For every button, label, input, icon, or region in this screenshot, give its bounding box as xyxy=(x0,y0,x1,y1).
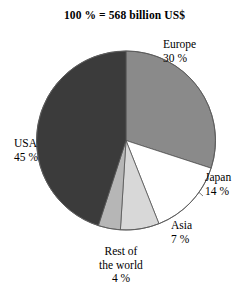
slice-label-usa-name: USA xyxy=(14,137,37,149)
slice-label-europe-name: Europe xyxy=(163,38,196,50)
slice-label-japan-name: Japan xyxy=(205,171,231,183)
slice-label-usa-value: 45 % xyxy=(14,151,38,165)
slice-label-japan-value: 14 % xyxy=(205,185,231,199)
slice-label-europe: Europe 30 % xyxy=(163,38,197,65)
slice-label-usa: USA 45 % xyxy=(14,137,38,164)
slice-label-asia: Asia 7 % xyxy=(171,219,197,246)
slice-label-rest-of-the-world: Rest of the world 4 % xyxy=(92,245,150,286)
slice-label-europe-value: 30 % xyxy=(163,52,197,66)
slice-label-asia-name: Asia xyxy=(171,219,192,231)
pie-chart-figure: 100 % = 568 billion US$ Europe 30 % Japa… xyxy=(0,0,249,290)
slice-label-japan: Japan 14 % xyxy=(205,171,231,198)
pie-slices-group xyxy=(36,51,215,230)
slice-label-rest-name-line1: Rest of xyxy=(105,245,138,257)
slice-label-rest-name-line2: the world xyxy=(92,259,150,273)
slice-label-rest-value: 4 % xyxy=(92,272,150,286)
slice-label-asia-value: 7 % xyxy=(171,233,197,247)
